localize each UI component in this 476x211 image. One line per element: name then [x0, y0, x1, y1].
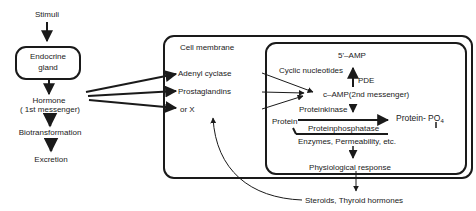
five-amp-label: 5'–AMP: [338, 51, 366, 60]
gland-label: gland: [38, 63, 58, 72]
proteinkinase-label: Proteinkinase: [299, 105, 347, 114]
endocrine-label: Endocrine: [30, 52, 66, 61]
hormone-label: Hormone: [33, 96, 66, 105]
protein-label: Protein: [272, 117, 297, 126]
enzymes-label: Enzymes, Permeability, etc.: [298, 137, 396, 146]
protein-po4-label: Protein- PO4: [396, 114, 444, 126]
biotransformation-label: Biotransformation: [19, 128, 82, 137]
receptor-prostaglandins: Prostaglandins: [178, 87, 231, 96]
physiological-response-label: Physiological response: [309, 163, 391, 172]
receptor-adenyl-cyclase: Adenyl cyclase: [178, 69, 231, 78]
cyclic-nucleotides-label: Cyclic nucleotides: [279, 66, 343, 75]
proteinphosphatase-label: Proteinphosphatase: [308, 124, 379, 133]
camp-label: c–AMP(2nd messenger): [323, 90, 409, 99]
pde-label: PDE: [358, 76, 374, 85]
stimuli-label: Stimuli: [35, 10, 59, 19]
receptor-or-x: or X: [180, 105, 195, 114]
excretion-label: Excretion: [34, 155, 67, 164]
inner-box: [266, 43, 466, 174]
first-messenger-label: ( 1st messenger): [20, 105, 80, 114]
cell-membrane-label: Cell membrane: [180, 43, 234, 52]
steroids-label: Steroids, Thyroid hormones: [305, 196, 403, 205]
